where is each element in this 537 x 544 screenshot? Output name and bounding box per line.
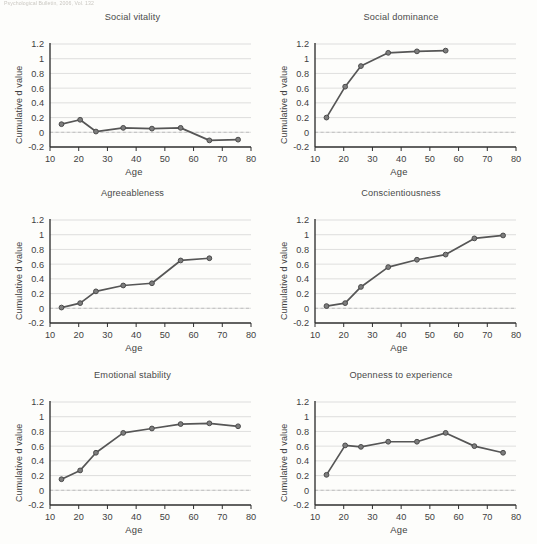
svg-text:30: 30 (367, 330, 377, 340)
chart-panel-social-vitality: Social vitality Cumulative d value Age 1… (0, 8, 265, 184)
svg-text:10: 10 (45, 154, 55, 164)
svg-text:0.4: 0.4 (31, 456, 44, 466)
chart-panel-emotional-stability: Emotional stability Cumulative d value A… (0, 366, 265, 544)
svg-text:60: 60 (188, 512, 198, 522)
svg-text:80: 80 (246, 512, 256, 522)
svg-text:0.2: 0.2 (296, 471, 309, 481)
svg-text:-0.2: -0.2 (28, 318, 44, 328)
svg-text:0.8: 0.8 (296, 427, 309, 437)
svg-text:10: 10 (45, 330, 55, 340)
chart-title: Social dominance (265, 12, 537, 22)
svg-text:0: 0 (39, 486, 44, 496)
svg-text:30: 30 (102, 512, 112, 522)
svg-text:60: 60 (453, 330, 463, 340)
svg-text:20: 20 (339, 154, 349, 164)
chart-panel-conscientiousness: Conscientiousness Cumulative d value Age… (265, 184, 537, 366)
svg-text:70: 70 (482, 154, 492, 164)
svg-text:30: 30 (102, 330, 112, 340)
svg-text:1: 1 (304, 230, 309, 240)
svg-text:0.4: 0.4 (31, 274, 44, 284)
svg-text:50: 50 (425, 154, 435, 164)
svg-text:30: 30 (367, 154, 377, 164)
chart-title: Emotional stability (0, 370, 265, 380)
svg-text:50: 50 (425, 512, 435, 522)
svg-text:-0.2: -0.2 (28, 142, 44, 152)
svg-text:-0.2: -0.2 (293, 500, 309, 510)
running-head: Psychological Bulletin, 2006, Vol. 132 (4, 0, 94, 6)
svg-text:0.8: 0.8 (296, 69, 309, 79)
chart-panel-agreeableness: Agreeableness Cumulative d value Age 1.2… (0, 184, 265, 366)
plot-area: 1.210.80.60.40.20-0.21020304050607080 (273, 198, 525, 350)
svg-text:50: 50 (160, 330, 170, 340)
svg-text:50: 50 (160, 154, 170, 164)
svg-text:0.8: 0.8 (31, 69, 44, 79)
svg-text:-0.2: -0.2 (28, 500, 44, 510)
chart-title: Conscientiousness (265, 188, 537, 198)
svg-text:0.2: 0.2 (31, 471, 44, 481)
svg-text:1.2: 1.2 (31, 215, 44, 225)
svg-text:0.6: 0.6 (31, 442, 44, 452)
svg-text:0.4: 0.4 (296, 274, 309, 284)
plot-area: 1.210.80.60.40.20-0.21020304050607080 (273, 380, 525, 532)
svg-text:0.6: 0.6 (31, 84, 44, 94)
chart-title: Agreeableness (0, 188, 265, 198)
svg-text:0.8: 0.8 (31, 245, 44, 255)
svg-text:1: 1 (39, 412, 44, 422)
svg-text:0.4: 0.4 (296, 456, 309, 466)
svg-text:-0.2: -0.2 (293, 142, 309, 152)
plot-area: 1.210.80.60.40.20-0.21020304050607080 (273, 22, 525, 174)
svg-text:60: 60 (188, 330, 198, 340)
svg-text:1: 1 (39, 54, 44, 64)
chart-panel-social-dominance: Social dominance Cumulative d value Age … (265, 8, 537, 184)
svg-text:0: 0 (304, 128, 309, 138)
svg-text:40: 40 (131, 154, 141, 164)
svg-text:70: 70 (482, 512, 492, 522)
svg-text:40: 40 (396, 330, 406, 340)
svg-text:10: 10 (310, 154, 320, 164)
svg-text:40: 40 (396, 154, 406, 164)
svg-text:-0.2: -0.2 (293, 318, 309, 328)
svg-text:1: 1 (304, 54, 309, 64)
svg-text:0.6: 0.6 (296, 260, 309, 270)
svg-text:60: 60 (188, 154, 198, 164)
svg-text:1.2: 1.2 (31, 397, 44, 407)
svg-text:1.2: 1.2 (296, 215, 309, 225)
svg-text:50: 50 (160, 512, 170, 522)
svg-text:0.6: 0.6 (296, 84, 309, 94)
svg-text:0.2: 0.2 (296, 289, 309, 299)
svg-text:20: 20 (339, 512, 349, 522)
svg-text:70: 70 (217, 330, 227, 340)
svg-text:80: 80 (246, 330, 256, 340)
svg-text:10: 10 (310, 512, 320, 522)
svg-text:20: 20 (74, 154, 84, 164)
svg-text:0.8: 0.8 (296, 245, 309, 255)
svg-text:1: 1 (304, 412, 309, 422)
svg-text:1.2: 1.2 (31, 39, 44, 49)
chart-panel-openness-to-experience: Openness to experience Cumulative d valu… (265, 366, 537, 544)
chart-grid: Social vitality Cumulative d value Age 1… (0, 8, 537, 544)
svg-text:0.2: 0.2 (31, 113, 44, 123)
svg-text:50: 50 (425, 330, 435, 340)
svg-text:0.2: 0.2 (31, 289, 44, 299)
svg-text:20: 20 (339, 330, 349, 340)
svg-text:0.8: 0.8 (31, 427, 44, 437)
svg-text:80: 80 (511, 512, 521, 522)
svg-text:10: 10 (310, 330, 320, 340)
svg-text:1: 1 (39, 230, 44, 240)
svg-text:1.2: 1.2 (296, 397, 309, 407)
svg-text:1.2: 1.2 (296, 39, 309, 49)
svg-text:30: 30 (102, 154, 112, 164)
svg-text:0: 0 (304, 304, 309, 314)
svg-text:0.4: 0.4 (296, 98, 309, 108)
svg-text:40: 40 (131, 330, 141, 340)
svg-text:60: 60 (453, 512, 463, 522)
svg-text:70: 70 (482, 330, 492, 340)
svg-text:0.4: 0.4 (31, 98, 44, 108)
plot-area: 1.210.80.60.40.20-0.21020304050607080 (8, 380, 260, 532)
svg-text:10: 10 (45, 512, 55, 522)
svg-text:20: 20 (74, 330, 84, 340)
svg-text:80: 80 (511, 330, 521, 340)
svg-text:0: 0 (39, 128, 44, 138)
svg-text:40: 40 (131, 512, 141, 522)
svg-text:0.6: 0.6 (296, 442, 309, 452)
